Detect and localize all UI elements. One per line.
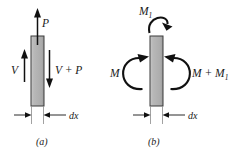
panel-a-bar-element <box>31 36 44 106</box>
panel-b-bar-element <box>150 36 163 106</box>
panel-b-right-moment-subscript: 1 <box>225 73 229 82</box>
mechanics-figure: P V V + P dx <box>0 0 234 156</box>
panel-b-caption: (b) <box>148 136 160 148</box>
panel-a-top-force-label: P <box>41 17 49 29</box>
panel-a-caption: (a) <box>36 136 48 148</box>
panel-a-right-force-label: V + P <box>55 64 82 76</box>
figure-canvas: P V V + P dx <box>0 0 234 156</box>
panel-a-dimension-label: dx <box>69 110 79 121</box>
panel-b-top-moment-subscript: 1 <box>149 11 153 20</box>
panel-b-left-moment-label: M <box>109 67 121 79</box>
panel-b-dimension-label: dx <box>188 110 198 121</box>
